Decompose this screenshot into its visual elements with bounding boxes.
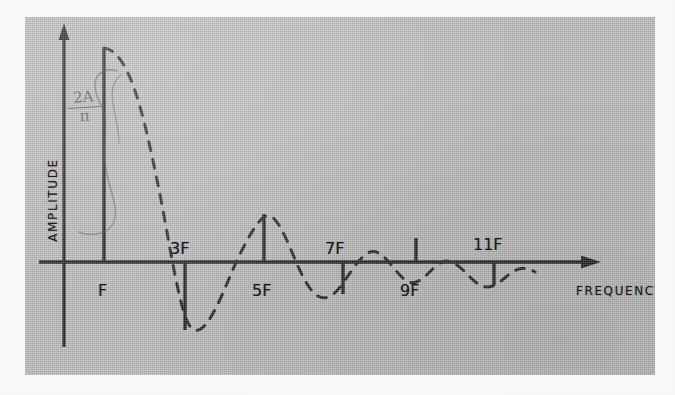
tick-label-5f: 5F — [252, 281, 271, 300]
y-axis-arrowhead — [59, 23, 70, 40]
figure-panel: 2A π AMPLITUDE FREQUENCY F 3F 5F 7F 9F 1… — [25, 17, 655, 375]
pencil-fraction-denominator: π — [79, 106, 90, 125]
tick-label-f: F — [98, 281, 107, 300]
x-axis-label: FREQUENCY — [576, 284, 655, 298]
tick-label-3f: 3F — [170, 239, 189, 258]
y-axis-label: AMPLITUDE — [46, 145, 60, 255]
x-axis-arrowhead — [581, 256, 601, 269]
harmonic-lines-group — [104, 48, 494, 330]
pencil-fraction-annotation: 2A π — [65, 89, 103, 126]
tick-label-11f: 11F — [473, 235, 503, 254]
tick-label-7f: 7F — [325, 239, 344, 258]
scanned-page-background: 2A π AMPLITUDE FREQUENCY F 3F 5F 7F 9F 1… — [0, 0, 675, 395]
tick-label-9f: 9F — [400, 281, 419, 300]
envelope-path — [104, 48, 535, 330]
envelope-curve — [104, 48, 535, 330]
pencil-fraction-numerator: 2A — [72, 87, 94, 106]
